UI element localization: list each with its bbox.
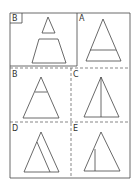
stimulus-label: B xyxy=(12,14,18,23)
option-label-a: A xyxy=(79,14,85,23)
stimulus-shape xyxy=(32,17,66,63)
option-d-shape[interactable] xyxy=(24,132,59,172)
figure-canvas: B A B C D E xyxy=(0,0,137,189)
option-c-shape[interactable] xyxy=(84,77,119,117)
option-e-shape[interactable] xyxy=(84,132,120,171)
option-label-d: D xyxy=(12,124,18,133)
outer-frame xyxy=(10,13,130,178)
option-label-b: B xyxy=(12,70,18,79)
option-label-e: E xyxy=(73,124,78,133)
option-label-c: C xyxy=(73,70,79,79)
option-a-shape[interactable] xyxy=(86,19,121,61)
option-b-shape[interactable] xyxy=(23,77,59,118)
